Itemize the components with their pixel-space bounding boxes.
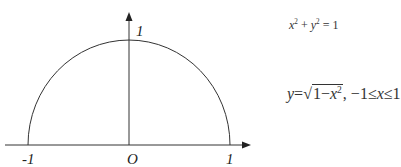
function-equation: y=√1−x2, −1≤x≤1 [287, 84, 401, 103]
eq-plus: + [298, 18, 311, 32]
label-y-one: 1 [136, 23, 144, 39]
fn-domain-prefix: , −1≤ [343, 85, 377, 102]
x-axis-arrowhead [242, 142, 251, 149]
sqrt-icon: √ [303, 85, 312, 102]
radicand-x: x [330, 85, 337, 102]
fn-equals: = [294, 85, 303, 102]
circle-equation: x2 + y2 = 1 [289, 18, 338, 33]
y-axis-arrowhead [126, 12, 133, 21]
label-x-neg-one: -1 [22, 151, 35, 167]
radicand-one: 1− [313, 85, 330, 102]
fn-domain-var: x [377, 85, 384, 102]
radicand-exponent: 2 [337, 84, 342, 95]
radicand: 1−x2 [312, 84, 343, 103]
label-x-pos-one: 1 [226, 151, 234, 167]
label-origin: O [127, 151, 138, 167]
eq-rhs: = 1 [320, 18, 339, 32]
fn-domain-upper: ≤1 [384, 85, 401, 102]
